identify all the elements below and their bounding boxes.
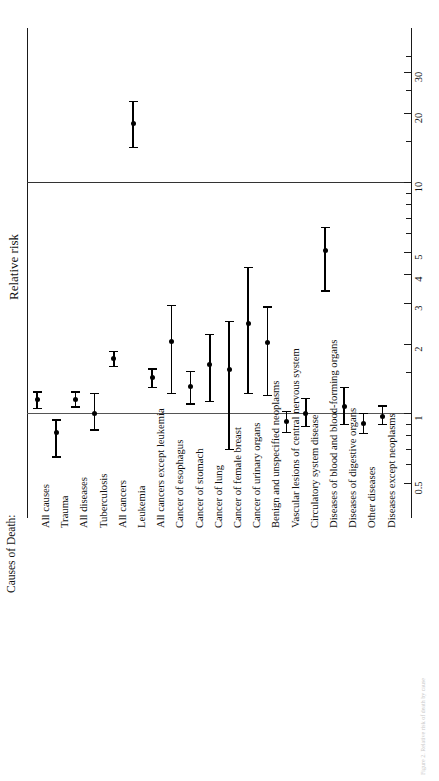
category-label: Vascular lesions of central nervous syst… — [291, 348, 302, 528]
category-label: Cancer of esophagus — [175, 440, 186, 528]
category-label: Diseases of blood and blood-forming orga… — [329, 340, 340, 528]
confidence-interval-cap-upper — [167, 305, 176, 306]
confidence-interval-cap-lower — [109, 366, 118, 367]
confidence-interval-cap-lower — [148, 387, 157, 388]
axis-tick-label: 10 — [414, 182, 425, 193]
category-axis-header: Causes of Death: — [5, 514, 17, 593]
confidence-interval-cap-lower — [205, 401, 214, 402]
category-label: Cancer of urinary organs — [252, 423, 263, 528]
data-point-marker — [207, 362, 212, 367]
axis-tick-major — [404, 344, 412, 345]
confidence-interval-cap-upper — [244, 267, 253, 268]
confidence-interval-cap-upper — [109, 351, 118, 352]
confidence-interval-cap-upper — [52, 419, 61, 420]
axis-tick-major — [404, 182, 412, 183]
data-point-marker — [284, 419, 289, 424]
data-point-marker — [188, 384, 193, 389]
category-label: Leukemia — [137, 486, 148, 528]
confidence-interval-whisker — [247, 267, 249, 393]
data-point-marker — [342, 404, 347, 409]
confidence-interval-cap-upper — [321, 227, 330, 228]
confidence-interval-cap-upper — [205, 334, 214, 335]
axis-tick-minor — [406, 372, 412, 373]
confidence-interval-whisker — [209, 334, 211, 401]
figure-caption: Figure 2. Relative risk of death by caus… — [420, 678, 426, 775]
axis-tick-major — [404, 483, 412, 484]
confidence-interval-cap-upper — [359, 413, 368, 414]
category-label: Other diseases — [367, 467, 378, 528]
axis-tick-label: 3 — [414, 305, 425, 310]
category-label: Trauma — [60, 495, 71, 528]
axis-tick-minor — [406, 449, 412, 450]
confidence-interval-cap-lower — [244, 393, 253, 394]
confidence-interval-cap-lower — [186, 403, 195, 404]
confidence-interval-cap-lower — [52, 456, 61, 457]
data-point-marker — [380, 414, 385, 419]
confidence-interval-cap-upper — [90, 393, 99, 394]
confidence-interval-cap-lower — [129, 147, 138, 148]
confidence-interval-cap-lower — [225, 449, 234, 450]
confidence-interval-whisker — [171, 305, 173, 394]
data-point-marker — [150, 375, 155, 380]
axis-tick-label: 30 — [414, 72, 425, 83]
data-point-marker — [169, 339, 174, 344]
confidence-interval-cap-lower — [90, 429, 99, 430]
data-point-marker — [73, 397, 78, 402]
confidence-interval-cap-lower — [359, 433, 368, 434]
confidence-interval-cap-upper — [282, 411, 291, 412]
confidence-interval-cap-lower — [340, 424, 349, 425]
axis-tick-major — [404, 303, 412, 304]
category-label: Benign and unspecified neoplasms — [271, 381, 282, 528]
category-label: Cancer of stomach — [195, 449, 206, 528]
category-label: Cancer of female breast — [233, 427, 244, 528]
confidence-interval-cap-lower — [263, 395, 272, 396]
confidence-interval-cap-lower — [167, 393, 176, 394]
axis-tick-label: 20 — [414, 112, 425, 123]
data-point-marker — [361, 421, 366, 426]
axis-tick-major — [404, 413, 412, 414]
confidence-interval-cap-upper — [186, 371, 195, 372]
confidence-interval-whisker — [55, 419, 57, 456]
category-label: Circulatory system disease — [310, 414, 321, 528]
confidence-interval-cap-upper — [129, 101, 138, 102]
axis-tick-minor — [406, 90, 412, 91]
axis-tick-minor — [406, 56, 412, 57]
data-point-marker — [246, 321, 251, 326]
confidence-interval-cap-upper — [71, 391, 80, 392]
confidence-interval-cap-upper — [225, 321, 234, 322]
confidence-interval-cap-upper — [33, 391, 42, 392]
axis-tick-major — [404, 252, 412, 253]
data-point-marker — [35, 397, 40, 402]
axis-tick-minor — [406, 141, 412, 142]
data-point-marker — [265, 340, 270, 345]
category-label: Diseases except neoplasms — [387, 413, 398, 528]
confidence-interval-cap-lower — [282, 432, 291, 433]
confidence-interval-cap-upper — [301, 398, 310, 399]
confidence-interval-cap-lower — [321, 290, 330, 291]
axis-tick-label: 4 — [414, 276, 425, 281]
data-point-marker — [323, 248, 328, 253]
axis-tick-minor — [406, 464, 412, 465]
forest-plot-figure: Relative risk Causes of Death: 0.5123451… — [0, 0, 439, 781]
axis-tick-label: 2 — [414, 346, 425, 351]
data-point-marker — [111, 356, 116, 361]
data-point-marker — [54, 430, 59, 435]
axis-tick-minor — [406, 233, 412, 234]
axis-tick-minor — [406, 424, 412, 425]
confidence-interval-cap-upper — [340, 387, 349, 388]
axis-tick-major — [404, 274, 412, 275]
confidence-interval-cap-upper — [378, 405, 387, 406]
axis-tick-label: 1 — [414, 415, 425, 420]
confidence-interval-cap-lower — [378, 424, 387, 425]
confidence-interval-whisker — [267, 306, 269, 395]
axis-tick-minor — [406, 218, 412, 219]
axis-tick-major — [404, 72, 412, 73]
data-point-marker — [227, 367, 232, 372]
axis-tick-minor — [406, 435, 412, 436]
category-label: Tuberculosis — [99, 474, 110, 528]
category-label: All cancers — [118, 480, 129, 528]
category-axis-line — [27, 28, 28, 518]
category-label: All cancers except leukemia — [156, 408, 167, 528]
confidence-interval-cap-upper — [148, 368, 157, 369]
axis-tick-label: 5 — [414, 254, 425, 259]
